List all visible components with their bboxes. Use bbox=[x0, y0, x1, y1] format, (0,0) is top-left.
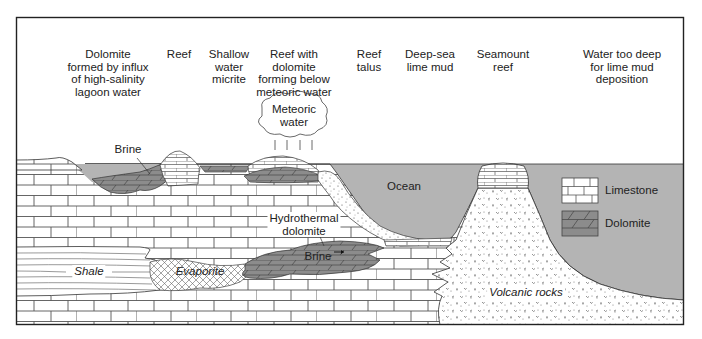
label-reef-talus: Reef talus bbox=[357, 48, 381, 73]
label-water-too-deep: Water too deep for lime mud deposition bbox=[583, 48, 661, 86]
legend-label-dolomite: Dolomite bbox=[605, 217, 650, 230]
label-brine-upper: Brine bbox=[115, 143, 142, 156]
label-reef-with-dolomite: Reef with dolomite forming below meteori… bbox=[256, 48, 331, 98]
micrite-dolomite-strip bbox=[200, 166, 250, 172]
label-ocean: Ocean bbox=[387, 180, 421, 193]
reef-mound bbox=[160, 151, 200, 186]
label-reef: Reef bbox=[167, 48, 191, 61]
label-meteoric-water: Meteoric water bbox=[272, 103, 316, 128]
legend-dolomite-swatch bbox=[562, 211, 598, 236]
label-evaporite: Evaporite bbox=[176, 265, 225, 278]
label-seamount-reef: Seamount reef bbox=[477, 48, 529, 73]
label-shale: Shale bbox=[72, 265, 105, 278]
label-shallow-water-micrite: Shallow water micrite bbox=[209, 48, 249, 86]
label-volcanic-rocks: Volcanic rocks bbox=[487, 286, 565, 299]
label-brine-lower: Brine bbox=[305, 250, 332, 263]
seamount-reef-cap bbox=[478, 163, 529, 188]
label-deep-sea-lime-mud: Deep-sea lime mud bbox=[405, 48, 455, 73]
left-platform-rise bbox=[16, 158, 82, 171]
label-dolomite-lagoon: Dolomite formed by influx of high-salini… bbox=[67, 48, 148, 98]
meteoric-rain-lines bbox=[275, 140, 312, 150]
legend-label-limestone: Limestone bbox=[605, 184, 658, 197]
legend-limestone-swatch bbox=[562, 178, 598, 203]
label-hydrothermal-dolomite: Hydrothermal dolomite bbox=[267, 212, 340, 237]
